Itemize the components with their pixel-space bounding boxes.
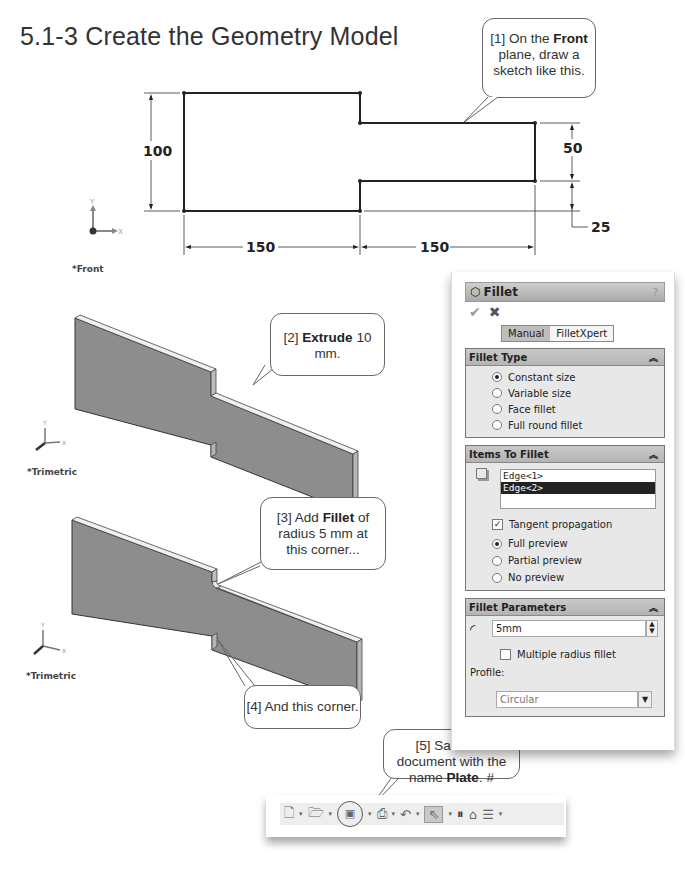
file-properties-icon[interactable]: ⌂	[469, 807, 477, 822]
undo-icon[interactable]: ↶	[400, 807, 411, 822]
front-view-label: *Front	[72, 264, 104, 274]
fillet-parameters-header[interactable]: Fillet Parameters ︽	[466, 599, 664, 616]
collapse-chevron-icon[interactable]: ︽	[649, 448, 658, 461]
callout-step-2: [2] Extrude 10 mm.	[270, 313, 385, 376]
list-item[interactable]: Edge<1>	[501, 470, 655, 482]
dim-neck-offset-label: 25	[591, 219, 610, 235]
dim-width-left-label: 150	[246, 239, 275, 255]
rebuild-icon[interactable]: ⏸	[457, 806, 464, 822]
dropdown-arrow-icon[interactable]: ▾	[416, 810, 420, 818]
save-icon[interactable]: ▣	[337, 801, 363, 827]
profile-label: Profile:	[466, 667, 664, 683]
trimetric-view-label: *Trimetric	[26, 671, 76, 681]
checkbox[interactable]	[500, 649, 511, 660]
radio-button[interactable]	[492, 556, 502, 566]
collapse-chevron-icon[interactable]: ︽	[649, 351, 658, 364]
radio-button[interactable]	[492, 388, 502, 398]
trimetric-axis-triad-icon: Y X	[36, 419, 66, 450]
dropdown-arrow-icon[interactable]: ▾	[499, 810, 503, 818]
radio-face-fillet[interactable]: Face fillet	[466, 401, 664, 417]
radio-full-preview[interactable]: Full preview	[466, 535, 664, 552]
fillet-property-manager: ⬡ Fillet ? ✔ ✖ Manual FilletXpert Fillet…	[465, 282, 665, 724]
svg-text:X: X	[62, 647, 66, 654]
profile-select[interactable]: Circular	[496, 691, 638, 708]
dropdown-arrow-icon[interactable]: ▾	[368, 810, 372, 818]
trimetric-axis-triad-icon: Y X	[34, 621, 66, 654]
fillet-feature-icon: ⬡	[470, 285, 480, 299]
svg-text:Y: Y	[40, 621, 45, 628]
dim-width-right-label: 150	[420, 239, 449, 255]
standard-toolbar: 🗋▾ 🗁▾ ▣▾ ⎙▾ ↶▾ ⇖▾ ⏸ ⌂ ☰▾	[280, 803, 564, 825]
radio-full-round-fillet[interactable]: Full round fillet	[466, 417, 664, 433]
tab-manual[interactable]: Manual	[502, 326, 550, 341]
edge-selection-icon	[476, 468, 487, 479]
list-item-selected[interactable]: Edge<2>	[501, 482, 655, 494]
cancel-x-icon[interactable]: ✖	[489, 304, 501, 320]
svg-text:X: X	[62, 439, 66, 446]
collapse-chevron-icon[interactable]: ︽	[649, 601, 658, 614]
help-icon[interactable]: ?	[652, 286, 658, 299]
fillet-panel-title: Fillet	[483, 285, 517, 299]
radio-button[interactable]	[492, 539, 502, 549]
radius-icon: ◜	[470, 621, 492, 637]
dropdown-arrow-icon[interactable]: ▾	[329, 810, 333, 818]
items-to-fillet-header[interactable]: Items To Fillet ︽	[466, 446, 664, 463]
dropdown-arrow-icon[interactable]: ▾	[448, 810, 452, 818]
svg-text:Y: Y	[89, 198, 95, 206]
tab-filletxpert[interactable]: FilletXpert	[550, 326, 613, 341]
checkbox[interactable]: ✓	[492, 519, 503, 530]
fillet-parameters-group: Fillet Parameters ︽ ◜ 5mm ▲▼ Multiple ra…	[465, 598, 665, 717]
mode-toggle: Manual FilletXpert	[501, 325, 614, 342]
radius-input[interactable]: 5mm	[492, 620, 646, 637]
new-document-icon[interactable]: 🗋	[284, 803, 294, 825]
dim-height-label: 100	[143, 143, 172, 159]
radio-variable-size[interactable]: Variable size	[466, 385, 664, 401]
radio-button[interactable]	[492, 420, 502, 430]
dropdown-arrow-icon[interactable]: ▼	[638, 691, 652, 708]
dropdown-arrow-icon[interactable]: ▾	[299, 810, 303, 818]
options-icon[interactable]: ☰	[482, 807, 494, 822]
ok-check-icon[interactable]: ✔	[469, 304, 481, 320]
fillet-type-group: Fillet Type ︽ Constant size Variable siz…	[465, 348, 665, 438]
dim-neck-height-label: 50	[563, 140, 583, 156]
front-axis-triad-icon: Y X	[89, 198, 123, 236]
fillet-type-header[interactable]: Fillet Type ︽	[466, 349, 664, 366]
trimetric-view-label: *Trimetric	[27, 467, 77, 477]
fillet-panel-header: ⬡ Fillet ?	[465, 282, 665, 302]
items-to-fillet-group: Items To Fillet ︽ Edge<1> Edge<2> ✓Tange…	[465, 445, 665, 591]
open-folder-icon[interactable]: 🗁	[308, 803, 324, 825]
radio-no-preview[interactable]: No preview	[466, 569, 664, 586]
edges-list[interactable]: Edge<1> Edge<2>	[500, 469, 656, 509]
callout-step-3: [3] Add Fillet of radius 5 mm at this co…	[260, 497, 386, 570]
multiple-radius-fillet-checkbox[interactable]: Multiple radius fillet	[466, 641, 664, 667]
radio-constant-size[interactable]: Constant size	[466, 369, 664, 385]
print-icon[interactable]: ⎙	[377, 806, 387, 822]
tangent-propagation-checkbox[interactable]: ✓Tangent propagation	[466, 515, 664, 533]
callout-step-4: [4] And this corner.	[244, 685, 361, 729]
radius-spinner[interactable]: ▲▼	[646, 620, 658, 637]
svg-text:X: X	[118, 228, 123, 236]
radio-button[interactable]	[492, 573, 502, 583]
dropdown-arrow-icon[interactable]: ▾	[392, 810, 396, 818]
radio-button[interactable]	[492, 404, 502, 414]
svg-text:Y: Y	[42, 419, 47, 426]
select-cursor-icon[interactable]: ⇖	[424, 806, 443, 823]
radio-partial-preview[interactable]: Partial preview	[466, 552, 664, 569]
radio-button[interactable]	[492, 372, 502, 382]
